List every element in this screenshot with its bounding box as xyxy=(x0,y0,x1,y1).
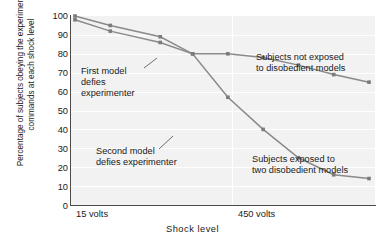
annotation-exposed: Subjects exposed to two disobedient mode… xyxy=(252,154,348,176)
x-axis-title: Shock level xyxy=(166,224,219,234)
x-tick-right: 450 volts xyxy=(238,209,275,219)
y-axis-line xyxy=(70,15,71,206)
leader-lines xyxy=(0,0,387,239)
x-axis-line xyxy=(70,205,376,206)
leader-line-first-model xyxy=(144,58,157,68)
x-tick-left: 15 volts xyxy=(76,209,108,219)
annotation-first-model: First model defies experimenter xyxy=(81,66,135,99)
annotation-not-exposed: Subjects not exposed to disobedient mode… xyxy=(256,52,345,74)
chart-figure: Percentage of subjects obeying the exper… xyxy=(0,0,387,239)
annotation-second-model: Second model defies experimenter xyxy=(96,146,177,168)
